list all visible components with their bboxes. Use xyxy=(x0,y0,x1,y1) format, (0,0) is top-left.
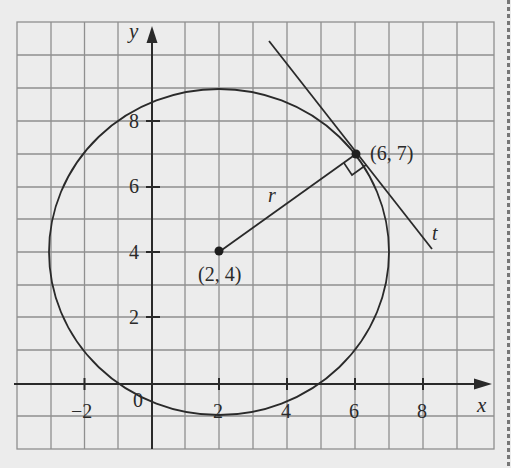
x-tick-label: 2 xyxy=(213,400,223,422)
x-axis-label: x xyxy=(476,393,487,417)
center-point-label: (2, 4) xyxy=(198,263,241,286)
x-axis-arrow-icon xyxy=(474,379,492,390)
center-point xyxy=(215,247,224,256)
page-edge-dashed-border xyxy=(507,0,510,468)
y-tick-label: 4 xyxy=(129,241,139,263)
y-tick-label: 2 xyxy=(129,306,139,328)
y-axis-label: y xyxy=(127,19,139,43)
x-tick-label: 8 xyxy=(417,400,427,422)
tangent-label: t xyxy=(432,222,438,244)
y-axis-arrow-icon xyxy=(147,26,158,43)
x-tick-label: −2 xyxy=(71,400,92,422)
y-tick-label: 6 xyxy=(129,175,139,197)
coordinate-diagram: y x 0 −2 2 4 6 8 2 4 6 8 (2, 4) (6, 7) r… xyxy=(0,0,511,468)
tangency-point-label: (6, 7) xyxy=(370,142,413,165)
y-tick-label: 8 xyxy=(129,110,139,132)
x-tick-label: 4 xyxy=(281,400,291,422)
radius-label: r xyxy=(268,184,276,206)
x-tick-label: 6 xyxy=(349,400,359,422)
tangency-point xyxy=(352,150,361,159)
origin-label: 0 xyxy=(133,389,143,411)
